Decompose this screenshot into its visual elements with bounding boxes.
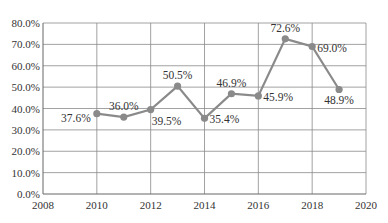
x-tick-label: 2014 bbox=[194, 199, 217, 211]
y-axis-ticks: 0.0%10.0%20.0%30.0%40.0%50.0%60.0%70.0%8… bbox=[12, 17, 40, 200]
x-tick-label: 2016 bbox=[247, 199, 270, 211]
data-point bbox=[147, 106, 154, 113]
data-label: 37.6% bbox=[61, 112, 91, 124]
data-label: 45.9% bbox=[263, 91, 293, 103]
data-point bbox=[228, 90, 235, 97]
data-label: 36.0% bbox=[109, 100, 139, 112]
data-label: 39.5% bbox=[152, 115, 182, 127]
y-tick-label: 40.0% bbox=[12, 103, 40, 115]
data-label: 35.4% bbox=[210, 113, 240, 125]
data-labels: 37.6%36.0%39.5%50.5%35.4%46.9%45.9%72.6%… bbox=[61, 22, 354, 127]
y-tick-label: 50.0% bbox=[12, 81, 40, 93]
x-tick-label: 2008 bbox=[32, 199, 55, 211]
data-label: 46.9% bbox=[217, 77, 247, 89]
data-label: 48.9% bbox=[324, 94, 354, 106]
x-tick-label: 2010 bbox=[86, 199, 109, 211]
y-tick-label: 70.0% bbox=[12, 38, 40, 50]
data-point bbox=[255, 92, 262, 99]
y-tick-label: 10.0% bbox=[12, 167, 40, 179]
y-tick-label: 60.0% bbox=[12, 60, 40, 72]
x-tick-label: 2018 bbox=[301, 199, 324, 211]
line-chart: 0.0%10.0%20.0%30.0%40.0%50.0%60.0%70.0%8… bbox=[0, 0, 388, 223]
data-label: 72.6% bbox=[270, 22, 300, 34]
data-label: 50.5% bbox=[163, 69, 193, 81]
data-point bbox=[120, 113, 127, 120]
data-point bbox=[309, 43, 316, 50]
x-axis-ticks: 2008201020122014201620182020 bbox=[32, 199, 378, 211]
data-label: 69.0% bbox=[317, 42, 347, 54]
data-point bbox=[282, 35, 289, 42]
data-point bbox=[174, 82, 181, 89]
y-tick-label: 80.0% bbox=[12, 17, 40, 29]
data-point bbox=[93, 110, 100, 117]
x-tick-label: 2020 bbox=[355, 199, 378, 211]
y-tick-label: 20.0% bbox=[12, 145, 40, 157]
x-tick-label: 2012 bbox=[140, 199, 162, 211]
y-tick-label: 30.0% bbox=[12, 124, 40, 136]
data-point bbox=[201, 115, 208, 122]
data-point bbox=[335, 86, 342, 93]
